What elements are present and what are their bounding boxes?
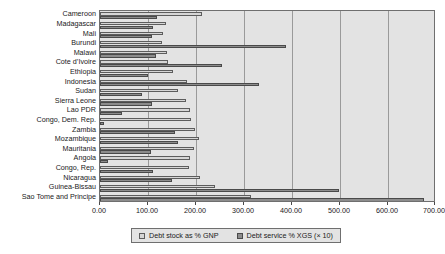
bar-debt-service — [100, 160, 108, 163]
x-tick-mark — [387, 202, 388, 205]
bar-debt-stock — [100, 70, 173, 73]
bar-debt-service — [100, 102, 152, 105]
category-label: Indonesia — [65, 78, 96, 86]
bar-row — [100, 174, 434, 184]
bar-debt-service — [100, 26, 153, 29]
bar-row — [100, 30, 434, 40]
bar-debt-service — [100, 150, 151, 153]
category-label: Nicaragua — [63, 174, 96, 182]
category-label: Sudan — [75, 87, 96, 95]
bar-row — [100, 136, 434, 146]
bar-debt-stock — [100, 99, 186, 102]
x-tick-label: 700.00 — [423, 206, 445, 215]
bar-debt-stock — [100, 22, 166, 25]
bar-row — [100, 155, 434, 165]
chart-legend: Debt stock as % GNPDebt service % XGS (×… — [131, 228, 341, 243]
bar-debt-service — [100, 16, 157, 19]
bar-row — [100, 21, 434, 31]
legend-entry: Debt service % XGS (× 10) — [237, 231, 333, 240]
legend-label: Debt service % XGS (× 10) — [247, 231, 333, 240]
x-tick-label: 300.00 — [232, 206, 254, 215]
x-tick-mark — [291, 202, 292, 205]
legend-swatch-debt-service — [237, 233, 243, 239]
category-label: Zambia — [72, 126, 96, 134]
bar-row — [100, 88, 434, 98]
category-label: Mauritania — [62, 145, 96, 153]
bar-row — [100, 40, 434, 50]
bar-row — [100, 69, 434, 79]
category-label: Sierra Leone — [55, 97, 96, 105]
category-label: Cameroon — [62, 10, 96, 18]
bar-debt-stock — [100, 118, 191, 121]
category-label: Mozambique — [55, 135, 96, 143]
bar-debt-stock — [100, 108, 190, 111]
bar-debt-service — [100, 45, 286, 48]
bar-debt-service — [100, 179, 172, 182]
bar-debt-service — [100, 74, 148, 77]
legend-swatch-debt-stock — [139, 233, 145, 239]
bar-debt-service — [100, 83, 259, 86]
bar-debt-service — [100, 141, 178, 144]
bar-debt-stock — [100, 41, 162, 44]
category-axis-labels: CameroonMadagascarMaliBurundiMalawiCote … — [0, 10, 96, 202]
x-tick-label: 600.00 — [376, 206, 398, 215]
bar-debt-service — [100, 189, 339, 192]
bar-row — [100, 11, 434, 21]
x-tick-mark — [99, 202, 100, 205]
category-label: Lao PDR — [67, 106, 96, 114]
category-label: Malawi — [74, 49, 96, 57]
bar-debt-stock — [100, 185, 215, 188]
bar-debt-stock — [100, 137, 199, 140]
bar-debt-stock — [100, 89, 178, 92]
bar-debt-stock — [100, 156, 190, 159]
x-tick-mark — [195, 202, 196, 205]
bar-debt-service — [100, 54, 156, 57]
bar-debt-stock — [100, 195, 251, 198]
legend-label: Debt stock as % GNP — [149, 231, 219, 240]
bar-debt-service — [100, 35, 152, 38]
category-label: Guinea-Bissau — [49, 183, 96, 191]
category-label: Ethiopia — [70, 68, 96, 76]
bar-debt-service — [100, 170, 153, 173]
bar-row — [100, 165, 434, 175]
category-label: Madagascar — [56, 20, 96, 28]
x-tick-label: 400.00 — [280, 206, 302, 215]
bar-debt-service — [100, 112, 122, 115]
category-label: Cote d’Ivoire — [56, 58, 96, 66]
bar-row — [100, 49, 434, 59]
bar-debt-service — [100, 93, 142, 96]
bar-row — [100, 97, 434, 107]
x-tick-mark — [147, 202, 148, 205]
bar-row — [100, 184, 434, 194]
category-label: Congo, Rep. — [56, 164, 96, 172]
bar-debt-service — [100, 122, 104, 125]
x-tick-label: 0.00 — [92, 206, 106, 215]
plot-area — [99, 10, 435, 202]
x-tick-label: 200.00 — [184, 206, 206, 215]
bar-debt-stock — [100, 128, 195, 131]
bar-row — [100, 193, 434, 202]
category-label: Sao Tome and Principe — [22, 193, 96, 201]
bar-row — [100, 59, 434, 69]
bar-debt-stock — [100, 147, 194, 150]
bar-debt-service — [100, 131, 175, 134]
bar-debt-stock — [100, 166, 189, 169]
x-tick-mark — [243, 202, 244, 205]
x-tick-label: 500.00 — [328, 206, 350, 215]
category-label: Congo, Dem. Rep. — [36, 116, 96, 124]
bar-rows — [100, 11, 434, 201]
bar-debt-stock — [100, 32, 163, 35]
x-tick-label: 100.00 — [136, 206, 158, 215]
x-tick-mark — [339, 202, 340, 205]
x-axis: 0.00100.00200.00300.00400.00500.00600.00… — [99, 202, 435, 218]
category-label: Mali — [83, 30, 96, 38]
bar-row — [100, 107, 434, 117]
bar-row — [100, 145, 434, 155]
bar-row — [100, 126, 434, 136]
x-tick-mark — [434, 202, 435, 205]
category-label: Burundi — [71, 39, 96, 47]
bar-row — [100, 78, 434, 88]
bar-debt-stock — [100, 80, 187, 83]
bar-debt-stock — [100, 60, 168, 63]
